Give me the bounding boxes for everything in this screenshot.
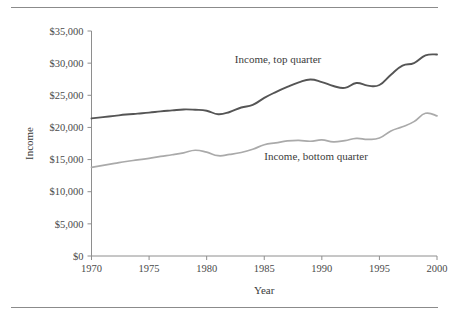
x-tick-label: 1990 xyxy=(311,263,332,274)
axes-group xyxy=(92,31,438,256)
line-chart: $0$5,000$10,000$15,000$20,000$25,000$30,… xyxy=(0,0,449,321)
series-annotations: Income, top quarterIncome, bottom quarte… xyxy=(235,53,368,162)
y-tick-label: $20,000 xyxy=(49,122,83,133)
y-tick-label: $15,000 xyxy=(49,154,83,165)
series-label-bottom-quarter: Income, bottom quarter xyxy=(264,150,368,162)
x-axis-title: Year xyxy=(254,284,275,296)
figure-container: $0$5,000$10,000$15,000$20,000$25,000$30,… xyxy=(0,0,449,321)
x-tick-label: 1985 xyxy=(254,263,275,274)
x-tick-label: 1980 xyxy=(196,263,217,274)
chart-svg: $0$5,000$10,000$15,000$20,000$25,000$30,… xyxy=(0,0,449,321)
y-tick-label: $0 xyxy=(73,251,84,262)
y-axis-title: Income xyxy=(23,127,35,160)
axis-lines xyxy=(92,31,438,256)
series-label-top-quarter: Income, top quarter xyxy=(235,53,322,65)
x-tick-labels: 1970197519801985199019952000 xyxy=(81,256,448,274)
x-tick-label: 1970 xyxy=(81,263,102,274)
y-tick-label: $10,000 xyxy=(49,186,83,197)
x-tick-label: 1995 xyxy=(369,263,390,274)
y-tick-label: $35,000 xyxy=(49,26,83,37)
x-tick-label: 2000 xyxy=(427,263,448,274)
y-tick-label: $25,000 xyxy=(49,90,83,101)
y-tick-label: $5,000 xyxy=(55,219,84,230)
y-tick-labels: $0$5,000$10,000$15,000$20,000$25,000$30,… xyxy=(49,26,91,262)
x-tick-label: 1975 xyxy=(139,263,160,274)
y-tick-label: $30,000 xyxy=(49,58,83,69)
